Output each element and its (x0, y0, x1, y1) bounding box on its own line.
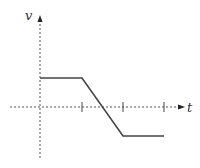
velocity-time-graph: v t (0, 0, 200, 168)
x-axis-arrow-icon (178, 105, 185, 110)
x-axis-label: t (187, 100, 193, 115)
y-axis-label: v (25, 8, 33, 23)
y-axis-arrow-icon (38, 15, 43, 22)
